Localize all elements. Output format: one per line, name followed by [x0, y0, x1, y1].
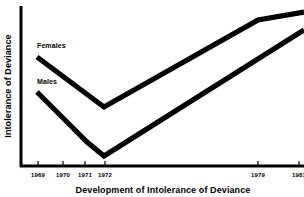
x-tick-label-1979: 1979	[251, 172, 266, 178]
series-label-females: Females	[37, 42, 66, 49]
series-line-males	[37, 30, 304, 156]
series-line-females	[37, 12, 304, 107]
series-label-males: Males	[37, 78, 57, 85]
x-tick-label-1970: 1970	[56, 172, 71, 178]
x-axis-title: Development of Intolerance of Deviance	[76, 185, 251, 195]
y-axis-title: Intolerance of Deviance	[3, 34, 13, 137]
x-tick-label-1971: 1971	[78, 172, 93, 178]
line-chart: Females Males 1969 1970 1971 1972 1979 1…	[0, 0, 304, 197]
chart-container: Females Males 1969 1970 1971 1972 1979 1…	[0, 0, 304, 197]
x-tick-label-1969: 1969	[31, 172, 46, 178]
x-tick-label-1972: 1972	[98, 172, 113, 178]
x-tick-label-1981: 1981	[292, 172, 304, 178]
